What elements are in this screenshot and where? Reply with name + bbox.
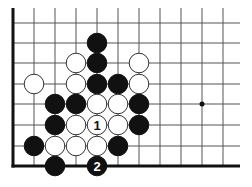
black-stone-icon (129, 115, 149, 135)
white-stone-icon (66, 53, 86, 73)
black-stone (24, 136, 44, 156)
white-stone-icon (24, 74, 44, 94)
black-stone (87, 33, 107, 53)
white-stone (87, 94, 107, 114)
white-stone-icon (66, 74, 86, 94)
white-stone (129, 74, 149, 94)
black-stone-icon (45, 94, 65, 114)
white-stone-move-1: 1 (87, 115, 107, 135)
white-stone (66, 136, 86, 156)
white-stone-icon (108, 115, 128, 135)
black-stone-icon (108, 74, 128, 94)
white-stone-icon (87, 94, 107, 114)
go-board: 12 (0, 0, 252, 187)
black-stone-move-2: 2 (87, 156, 107, 176)
black-stone-icon (108, 136, 128, 156)
white-stone (66, 115, 86, 135)
white-stone-icon (66, 115, 86, 135)
white-stone (45, 136, 65, 156)
black-stone (87, 74, 107, 94)
black-stone (129, 115, 149, 135)
white-stone-icon (129, 74, 149, 94)
white-stone-icon (66, 136, 86, 156)
star-point-icon (200, 102, 205, 107)
black-stone (45, 94, 65, 114)
white-stone (87, 136, 107, 156)
black-stone-icon (87, 74, 107, 94)
white-stone (24, 74, 44, 94)
black-stone-icon (45, 115, 65, 135)
black-stone-icon (24, 136, 44, 156)
black-stone (108, 74, 128, 94)
black-stone-icon (87, 53, 107, 73)
white-stone (66, 74, 86, 94)
white-stone (108, 115, 128, 135)
move-number-label: 2 (93, 159, 100, 174)
black-stone-icon (129, 94, 149, 114)
black-stone-icon (45, 156, 65, 176)
white-stone (108, 94, 128, 114)
black-stone (66, 94, 86, 114)
white-stone (129, 53, 149, 73)
black-stone-icon (66, 94, 86, 114)
black-stone (108, 136, 128, 156)
black-stone (87, 53, 107, 73)
white-stone-icon (45, 136, 65, 156)
black-stone (45, 115, 65, 135)
black-stone (45, 156, 65, 176)
black-stone-icon (87, 33, 107, 53)
white-stone (66, 53, 86, 73)
black-stone (129, 94, 149, 114)
white-stone-icon (108, 94, 128, 114)
white-stone-icon (129, 53, 149, 73)
move-number-label: 1 (93, 118, 100, 133)
star-points (200, 102, 205, 107)
white-stone-icon (87, 136, 107, 156)
